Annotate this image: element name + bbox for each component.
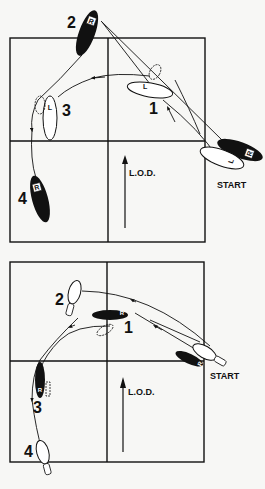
step-4-foot-right: R <box>26 174 54 225</box>
step-number-4: 4 <box>24 443 33 460</box>
start-label: START <box>217 180 247 190</box>
step-number-2: 2 <box>55 291 64 308</box>
step-2-foot-right: R <box>71 8 102 59</box>
svg-text:L: L <box>143 83 148 90</box>
dance-step-diagrams: R 2 L 1 L 3 R 4 R <box>0 0 265 489</box>
step-number-3: 3 <box>62 102 71 119</box>
step-1-foot-left: L <box>126 79 174 101</box>
step-paths <box>32 21 223 178</box>
step-number-3: 3 <box>33 399 42 416</box>
svg-text:L: L <box>48 104 53 111</box>
step-number-2: 2 <box>67 14 76 31</box>
step-1-ghost-foot <box>147 63 164 82</box>
step-number-4: 4 <box>18 190 27 207</box>
step-number-1: 1 <box>149 100 158 117</box>
step-2-foot-left <box>63 279 84 317</box>
top-diagram: R 2 L 1 L 3 R 4 R <box>10 8 265 242</box>
lod-arrow <box>122 155 128 228</box>
step-1-ghost-foot <box>95 322 115 338</box>
lod-label: L.O.D. <box>129 168 156 178</box>
step-3-foot-right: R <box>35 362 45 398</box>
step-1-foot-right: R <box>92 310 128 320</box>
step-4-foot-left <box>34 439 55 476</box>
lod-arrow <box>120 377 126 452</box>
svg-text:R: R <box>120 310 125 316</box>
svg-text:R: R <box>38 387 43 393</box>
start-label: START <box>210 371 240 381</box>
bottom-diagram: 2 R 1 R 3 4 R <box>10 262 240 476</box>
step-3-ghost-foot <box>46 382 50 396</box>
lod-label: L.O.D. <box>128 387 155 397</box>
step-number-1: 1 <box>124 319 133 336</box>
